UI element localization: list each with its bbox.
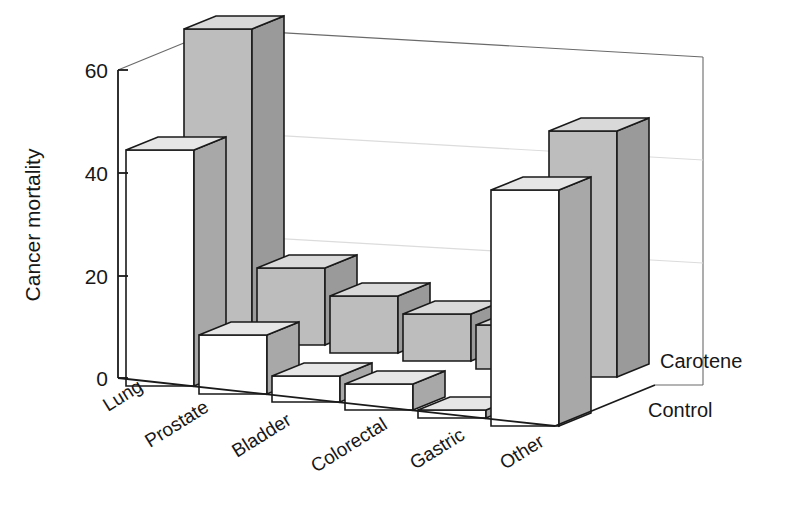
bar-face-front [330, 296, 398, 353]
y-tick-label-60: 60 [85, 59, 108, 82]
bar-face-side [617, 118, 649, 377]
bar-face-front [403, 314, 471, 361]
cancer-mortality-3d-bar-chart: 60 40 20 0 Cancer mortality Lung Prostat… [0, 0, 807, 522]
y-tick-label-0: 0 [96, 367, 108, 390]
bar-face-side [559, 177, 591, 426]
bar-face-front [491, 190, 559, 426]
bar-control-other [491, 177, 591, 426]
series-label-carotene: Carotene [660, 350, 742, 372]
chart-background [0, 0, 807, 522]
chart-canvas: 60 40 20 0 Cancer mortality Lung Prostat… [0, 0, 807, 522]
y-tick-label-20: 20 [85, 265, 108, 288]
bar-face-front [199, 335, 267, 394]
y-axis-title: Cancer mortality [21, 148, 44, 301]
series-label-control: Control [648, 399, 712, 421]
y-tick-label-40: 40 [85, 162, 108, 185]
bar-face-front [126, 150, 194, 386]
